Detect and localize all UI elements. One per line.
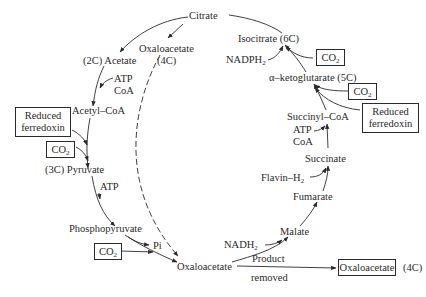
node-malate: Malate xyxy=(280,226,309,238)
co2-right-lower-label: CO xyxy=(353,86,368,97)
node-isocitrate: Isocitrate (6C) xyxy=(238,33,299,45)
oxaloacetate-product-box: Oxaloacetate xyxy=(338,259,396,276)
reduced-ferredoxin-left-box: Reduced ferredoxin xyxy=(15,107,71,137)
arrow-citrate-oxaloacetate xyxy=(168,24,183,38)
node-fumarate: Fumarate xyxy=(293,191,333,203)
cofactor-atp-pyruvate: ATP xyxy=(100,181,119,193)
product-removed-line2: removed xyxy=(251,272,288,284)
node-alpha-ketoglutarate: α–ketoglutarate (5C) xyxy=(269,72,356,84)
arrow-malate-fumarate xyxy=(300,202,317,226)
cofactor-atp-left: ATP xyxy=(114,73,133,85)
cofactor-coa-left: CoA xyxy=(114,85,134,97)
cofactor-flavin-h2: Flavin–H2 xyxy=(261,172,304,184)
flavin-sub: 2 xyxy=(301,177,305,185)
reduced-ferredoxin-left-line2: ferredoxin xyxy=(16,122,70,134)
node-oxaloacetate-bottom: Oxaloacetate xyxy=(177,261,232,273)
cofactor-nadh2: NADH2 xyxy=(224,239,258,251)
co2-right-upper-label: CO xyxy=(321,52,336,63)
nadph2-sub: 2 xyxy=(262,59,266,67)
co2-right-lower-box: CO2 xyxy=(348,83,377,100)
cofactor-nadph2: NADPH2 xyxy=(226,54,266,66)
co2-left-label: CO xyxy=(51,144,66,155)
co2-right-upper-box: CO2 xyxy=(316,49,345,66)
node-phosphopyruvate: Phosphopyruvate xyxy=(69,223,142,235)
cofactor-atp-right: ATP xyxy=(293,124,312,136)
product-removed-line1: Product xyxy=(252,253,285,265)
reduced-ferredoxin-right-line1: Reduced xyxy=(363,106,418,118)
co2-left-box: CO2 xyxy=(46,141,75,158)
arrow-dashed-oxaloacetate xyxy=(136,55,178,256)
node-succinate: Succinate xyxy=(305,153,346,165)
arrow-succinate-succinylcoa xyxy=(327,124,328,148)
node-acetate: (2C) Acetate xyxy=(83,55,136,67)
co2-bottom-sub: 2 xyxy=(114,251,118,259)
oxaloacetate-product-label: Oxaloacetate xyxy=(340,262,395,273)
co2-left-sub: 2 xyxy=(66,149,70,157)
node-oxaloacetate-top-carbons: (4C) xyxy=(157,55,176,67)
node-oxaloacetate-top: Oxaloacetate xyxy=(139,43,194,55)
co2-right-upper-sub: 2 xyxy=(336,57,340,65)
flavin-label: Flavin–H xyxy=(261,172,301,183)
co2-bottom-box: CO2 xyxy=(94,243,122,260)
arrow-acetate-acetylcoa xyxy=(93,66,104,106)
arrow-product-removed xyxy=(237,266,336,268)
cofactor-pi: Pi xyxy=(153,240,162,252)
nadh2-label: NADH xyxy=(224,239,254,250)
reduced-ferredoxin-right-box: Reduced ferredoxin xyxy=(362,103,419,133)
node-citrate: Citrate xyxy=(189,10,218,22)
nadph2-label: NADPH xyxy=(226,54,262,65)
cofactor-coa-right: CoA xyxy=(293,136,313,148)
node-pyruvate: (3C) Pyruvate xyxy=(45,164,104,176)
reduced-ferredoxin-left-line1: Reduced xyxy=(16,110,70,122)
nadh2-sub: 2 xyxy=(254,244,258,252)
co2-right-lower-sub: 2 xyxy=(368,91,372,99)
co2-bottom-label: CO xyxy=(99,246,114,257)
arrow-phosphopyruvate-oxaloacetate xyxy=(125,235,177,262)
oxaloacetate-product-carbons: (4C) xyxy=(403,262,422,274)
arrow-citrate-isocitrate xyxy=(229,15,282,33)
node-acetyl-coa: Acetyl–CoA xyxy=(72,105,125,117)
node-succinyl-coa: Succinyl–CoA xyxy=(287,111,349,123)
reduced-ferredoxin-right-line2: ferredoxin xyxy=(363,118,418,130)
